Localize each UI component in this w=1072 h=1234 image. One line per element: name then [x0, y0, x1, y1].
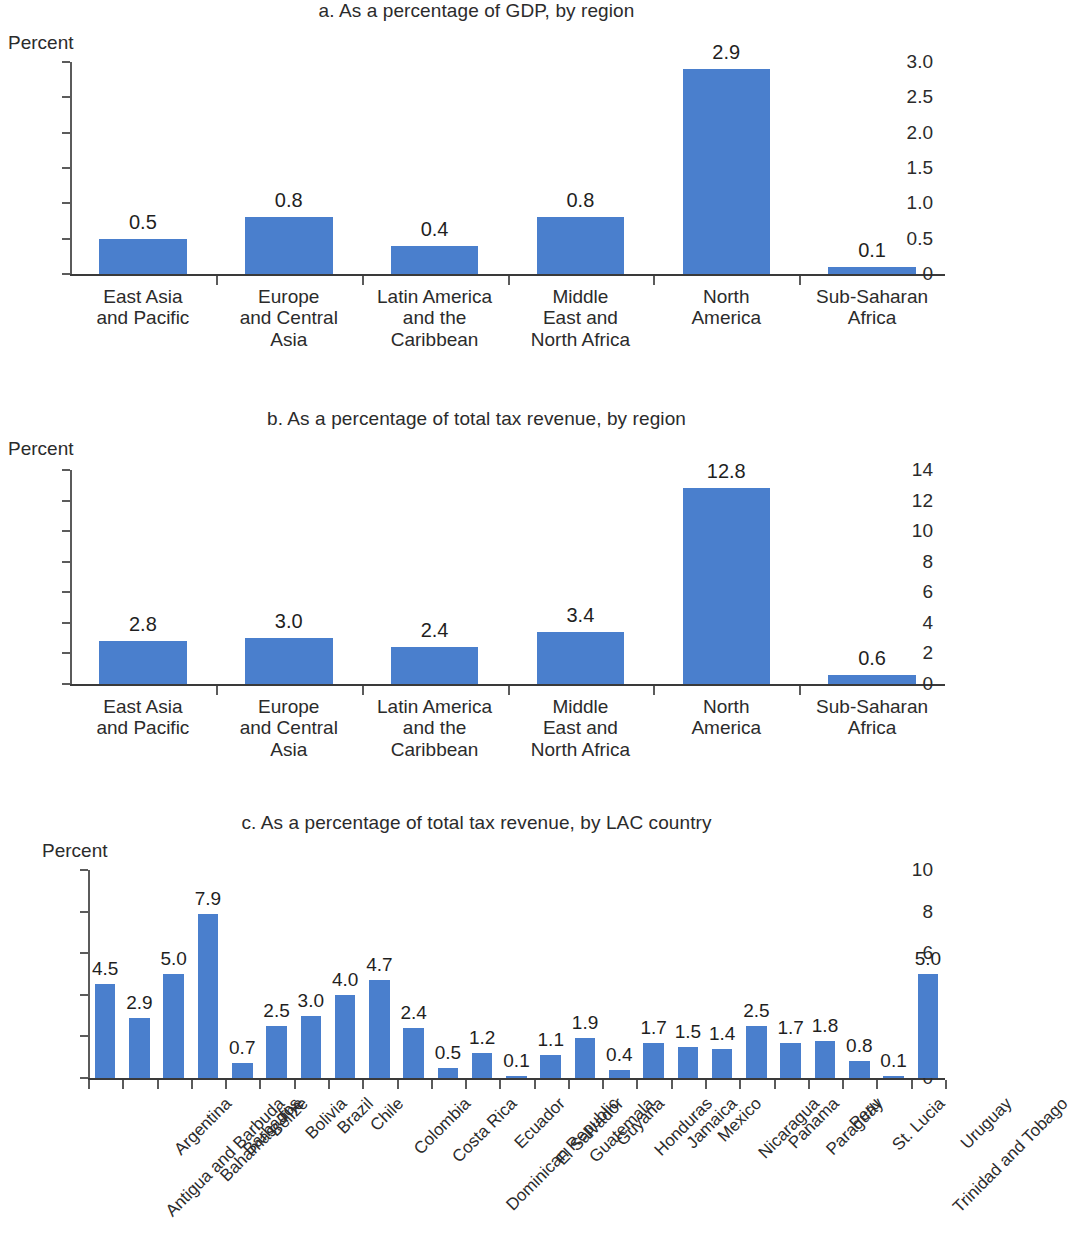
x-axis-tick: [122, 1080, 124, 1089]
x-axis-tick: [259, 1080, 261, 1089]
x-axis-tick: [705, 1080, 707, 1089]
bar-value-label: 0.1: [880, 1050, 906, 1072]
y-axis-tick: [80, 994, 88, 996]
bar-value-label: 5.0: [160, 948, 186, 970]
bar: [99, 641, 187, 684]
x-axis-tick: [157, 1080, 159, 1089]
bar-value-label: 0.1: [503, 1050, 529, 1072]
bar: [712, 1049, 733, 1078]
y-axis-tick: [62, 61, 70, 63]
bar: [683, 69, 771, 274]
y-axis-tick: [62, 167, 70, 169]
bar-value-label: 0.8: [846, 1035, 872, 1057]
y-axis-tick: [62, 500, 70, 502]
x-axis-tick: [799, 276, 801, 285]
x-axis-tick: [653, 276, 655, 285]
bar-value-label: 4.7: [366, 954, 392, 976]
bar: [198, 914, 219, 1078]
x-axis-tick: [636, 1080, 638, 1089]
bar-value-label: 12.8: [707, 460, 746, 483]
y-axis-tick-label: 1.5: [907, 157, 933, 179]
bar: [369, 980, 390, 1078]
y-axis-tick: [80, 952, 88, 954]
y-axis-tick: [80, 1035, 88, 1037]
region-label: Sub-Saharan Africa: [779, 696, 965, 739]
bar-value-label: 0.8: [275, 189, 303, 212]
panel-b-plot: 024681012142.83.02.43.412.80.6: [70, 470, 945, 684]
x-axis-tick: [225, 1080, 227, 1089]
x-axis-tick: [508, 276, 510, 285]
x-axis-tick: [808, 1080, 810, 1089]
bar: [828, 675, 916, 684]
x-axis-tick: [216, 276, 218, 285]
y-axis-tick: [62, 202, 70, 204]
y-axis-tick: [62, 652, 70, 654]
bar-value-label: 1.7: [640, 1017, 666, 1039]
y-axis-tick-label: 4: [922, 612, 933, 634]
bar-value-label: 5.0: [915, 948, 941, 970]
x-axis-tick: [568, 1080, 570, 1089]
bar: [780, 1043, 801, 1078]
bar: [266, 1026, 287, 1078]
x-axis-tick: [362, 1080, 364, 1089]
x-axis-tick: [431, 1080, 433, 1089]
y-axis-tick-label: 0.5: [907, 228, 933, 250]
bar-value-label: 1.2: [469, 1027, 495, 1049]
bar: [537, 217, 625, 274]
bar: [245, 217, 333, 274]
y-axis-tick-label: 2.5: [907, 86, 933, 108]
panel-a-plot: 00.51.01.52.02.53.00.50.80.40.82.90.1: [70, 62, 945, 274]
bar: [403, 1028, 424, 1078]
x-axis-tick: [362, 276, 364, 285]
bar-value-label: 0.6: [858, 647, 886, 670]
y-axis-line: [70, 62, 72, 274]
x-axis-tick: [499, 1080, 501, 1089]
x-axis-tick: [294, 1080, 296, 1089]
x-axis-tick: [671, 1080, 673, 1089]
y-axis-line: [70, 470, 72, 684]
bar: [391, 246, 479, 274]
y-axis-tick-label: 3.0: [907, 51, 933, 73]
bar: [163, 974, 184, 1078]
x-axis-tick: [842, 1080, 844, 1089]
bar: [609, 1070, 630, 1078]
x-axis-tick: [362, 686, 364, 695]
bar: [540, 1055, 561, 1078]
bar: [849, 1061, 870, 1078]
bar-value-label: 2.5: [743, 1000, 769, 1022]
panel-a-title: a. As a percentage of GDP, by region: [0, 0, 953, 22]
panel-b-title: b. As a percentage of total tax revenue,…: [0, 408, 953, 430]
panel-c: c. As a percentage of total tax revenue,…: [0, 812, 953, 1234]
y-axis-tick-label: 10: [912, 859, 933, 881]
bar-value-label: 0.7: [229, 1037, 255, 1059]
bar: [883, 1076, 904, 1078]
region-label: Sub-Saharan Africa: [779, 286, 965, 329]
x-axis-tick: [508, 686, 510, 695]
panel-b: b. As a percentage of total tax revenue,…: [0, 408, 953, 808]
bar: [335, 995, 356, 1078]
y-axis-tick: [62, 132, 70, 134]
bar: [828, 267, 916, 274]
x-axis-tick: [799, 686, 801, 695]
bar: [232, 1063, 253, 1078]
bar-value-label: 0.4: [606, 1044, 632, 1066]
bar: [746, 1026, 767, 1078]
y-axis-tick: [62, 683, 70, 685]
bar: [506, 1076, 527, 1078]
y-axis-tick: [62, 591, 70, 593]
x-axis-tick: [774, 1080, 776, 1089]
bar-value-label: 1.7: [778, 1017, 804, 1039]
y-axis-tick: [62, 273, 70, 275]
bar-value-label: 1.4: [709, 1023, 735, 1045]
bar-value-label: 1.8: [812, 1015, 838, 1037]
bar-value-label: 2.4: [421, 619, 449, 642]
panel-a: a. As a percentage of GDP, by region Per…: [0, 0, 953, 400]
bar: [129, 1018, 150, 1078]
y-axis-line: [88, 870, 90, 1078]
panel-c-plot: 02468104.52.95.07.90.72.53.04.04.72.40.5…: [88, 870, 945, 1078]
bar-value-label: 7.9: [195, 888, 221, 910]
bar-value-label: 1.9: [572, 1012, 598, 1034]
x-axis-tick: [911, 1080, 913, 1089]
bar: [391, 647, 479, 684]
y-axis-tick-label: 14: [912, 459, 933, 481]
